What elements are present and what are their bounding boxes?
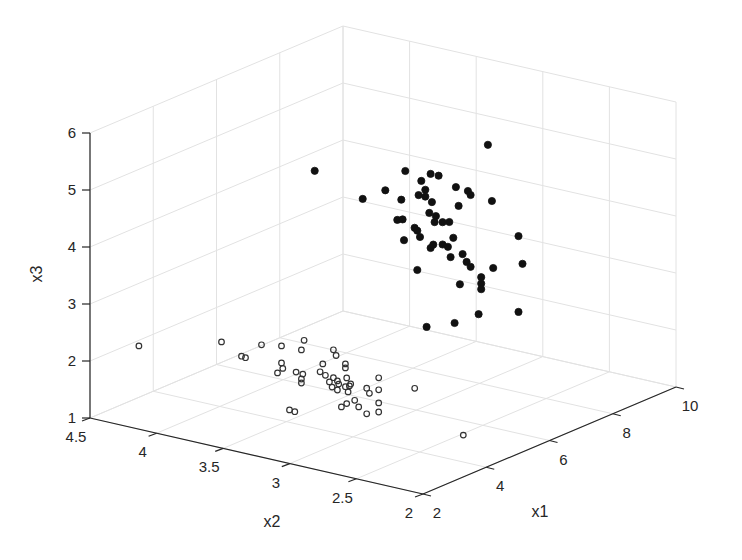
open-data-point (219, 339, 225, 345)
filled-data-point (467, 191, 474, 198)
open-data-point (376, 387, 382, 393)
filled-data-point (475, 311, 482, 318)
wall-gridline (343, 26, 676, 102)
filled-data-point (414, 266, 421, 273)
filled-data-point (427, 170, 434, 177)
open-data-point (367, 391, 373, 397)
filled-data-point (467, 263, 474, 270)
x3-tick-label: 6 (68, 124, 76, 141)
open-data-point (292, 409, 298, 415)
open-data-point (376, 409, 382, 415)
floor-gridline (290, 357, 543, 464)
floor-gridline (280, 338, 613, 414)
filled-data-point (451, 319, 458, 326)
x1-tick (613, 414, 621, 416)
filled-data-point (428, 199, 435, 206)
filled-data-point (446, 218, 453, 225)
x2-axis-label: x2 (264, 513, 281, 530)
filled-data-point (426, 209, 433, 216)
filled-data-point (488, 197, 495, 204)
x2-tick-label: 3 (272, 474, 280, 491)
x3-tick-label: 5 (68, 181, 76, 198)
x3-tick-label: 3 (68, 295, 76, 312)
filled-data-point (402, 167, 409, 174)
open-data-point (376, 375, 382, 381)
x2-tick (149, 433, 157, 436)
open-data-point (275, 370, 281, 376)
filled-data-point (444, 243, 451, 250)
axes: 24681022.533.544.5123456 (66, 124, 699, 521)
data-points (136, 141, 526, 438)
open-data-point (352, 398, 358, 404)
filled-data-point (519, 260, 526, 267)
floor-gridline (217, 365, 550, 441)
x1-tick (550, 441, 558, 443)
filled-data-point (418, 177, 425, 184)
filled-data-point (430, 241, 437, 248)
x1-tick-label: 8 (623, 424, 631, 441)
floor-gridline (223, 341, 476, 448)
x1-axis-label: x1 (532, 503, 549, 520)
x2-tick-label: 2 (405, 504, 413, 521)
filled-data-point (398, 196, 405, 203)
axis-labels: x1 x2 x3 (28, 265, 549, 530)
x1-tick-label: 2 (433, 504, 441, 521)
open-data-point (299, 347, 305, 353)
filled-data-point (415, 192, 422, 199)
x3-tick-label: 4 (68, 238, 76, 255)
x1-tick-label: 6 (559, 451, 567, 468)
wall-gridline (343, 254, 676, 330)
wall-gridline (343, 197, 676, 273)
filled-data-point (359, 195, 366, 202)
filled-data-point (435, 172, 442, 179)
x1-tick-label: 4 (496, 477, 504, 494)
open-data-point (323, 373, 329, 379)
filled-data-point (478, 286, 485, 293)
filled-data-point (456, 281, 463, 288)
wall-gridline (343, 140, 676, 216)
x3-axis-label: x3 (28, 265, 45, 282)
x2-tick (415, 494, 423, 497)
open-data-point (343, 361, 349, 367)
filled-data-point (490, 264, 497, 271)
filled-data-point (452, 184, 459, 191)
x1-tick (676, 387, 684, 389)
filled-data-point (432, 213, 439, 220)
x1-tick (423, 494, 431, 496)
filled-data-point (382, 187, 389, 194)
floor-gridline (153, 391, 486, 467)
filled-data-point (422, 193, 429, 200)
filled-data-point (455, 202, 462, 209)
x2-tick (282, 464, 290, 467)
open-data-point (301, 338, 307, 344)
x1-tick-label: 10 (682, 397, 699, 414)
open-data-point (279, 360, 285, 366)
x1-tick (486, 467, 494, 469)
open-data-point (279, 343, 285, 349)
open-data-point (329, 384, 335, 390)
x2-tick (348, 479, 356, 482)
open-data-point (345, 389, 351, 395)
open-data-point (356, 404, 362, 410)
x2-tick (215, 448, 223, 451)
filled-data-point (450, 234, 457, 241)
filled-data-point (439, 219, 446, 226)
filled-data-point (416, 233, 423, 240)
filled-data-point (459, 251, 466, 258)
floor-gridline (157, 326, 410, 433)
open-data-point (339, 404, 345, 410)
open-data-point (344, 375, 350, 381)
open-data-point (344, 401, 350, 407)
wall-gridline (343, 311, 676, 387)
filled-data-point (422, 186, 429, 193)
filled-data-point (515, 308, 522, 315)
open-data-point (280, 366, 286, 372)
open-data-point (136, 343, 142, 349)
x2-tick-label: 2.5 (332, 489, 353, 506)
filled-data-point (515, 233, 522, 240)
filled-data-point (423, 323, 430, 330)
filled-data-point (484, 141, 491, 148)
filled-data-point (400, 237, 407, 244)
open-data-point (317, 369, 323, 375)
open-data-point (412, 386, 418, 392)
